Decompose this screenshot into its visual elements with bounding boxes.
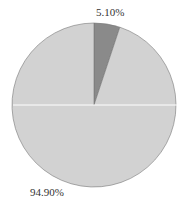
label-large-slice: 94.90%	[30, 186, 64, 198]
label-small-slice: 5.10%	[96, 6, 124, 18]
pie-chart	[0, 0, 182, 206]
